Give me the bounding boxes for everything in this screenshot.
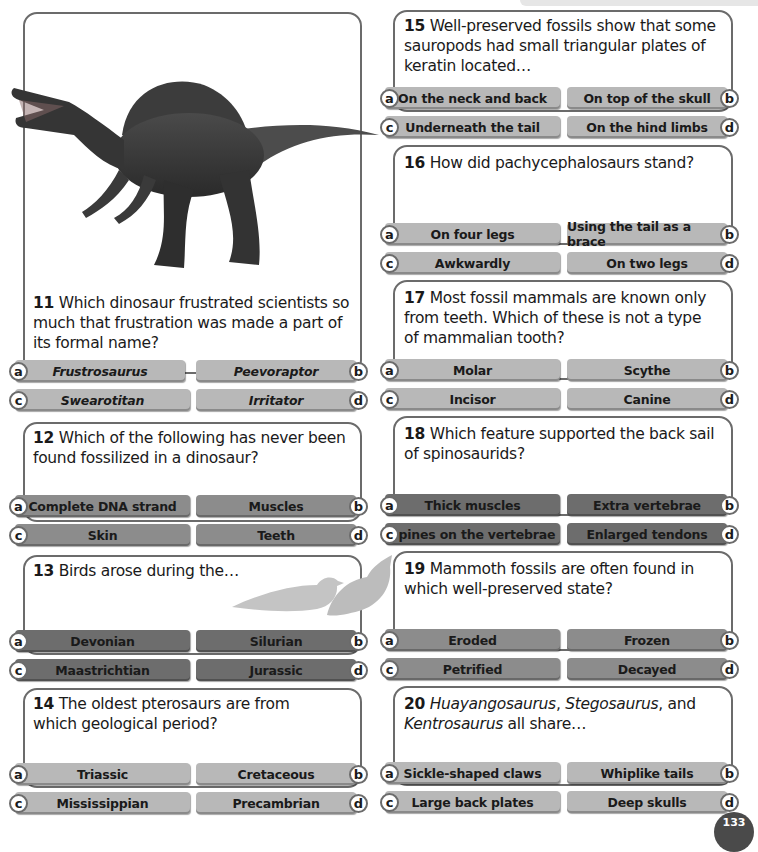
question-20-text: 20 Huayangosaurus, Stegosaurus, and Kent… — [404, 694, 734, 734]
badge-b: b — [720, 225, 739, 244]
option-d[interactable]: Canine — [567, 388, 727, 410]
option-c[interactable]: Underneath the tail — [385, 116, 560, 138]
badge-c: c — [380, 793, 399, 812]
option-c[interactable]: Skin — [15, 524, 190, 546]
option-a[interactable]: Triassic — [15, 763, 190, 785]
option-c[interactable]: Awkwardly — [385, 252, 560, 274]
option-a[interactable]: On four legs — [385, 223, 560, 245]
option-b[interactable]: On top of the skull — [567, 87, 727, 109]
badge-a: a — [380, 225, 399, 244]
badge-a: a — [9, 362, 28, 381]
option-b[interactable]: Cretaceous — [196, 763, 356, 785]
option-d[interactable]: Decayed — [567, 658, 727, 680]
option-a[interactable]: Sickle-shaped claws — [385, 762, 560, 784]
option-a[interactable]: Complete DNA strand — [15, 495, 190, 517]
badge-a: a — [380, 89, 399, 108]
question-11-text: 11 Which dinosaur frustrated scientists … — [33, 293, 363, 353]
badge-b: b — [349, 765, 368, 784]
option-d[interactable]: Irritator — [196, 389, 356, 411]
badge-d: d — [349, 661, 368, 680]
question-16-text: 16 How did pachycephalosaurs stand? — [404, 153, 734, 173]
option-d[interactable]: Enlarged tendons — [567, 523, 727, 545]
badge-a: a — [380, 764, 399, 783]
badge-a: a — [380, 496, 399, 515]
option-d[interactable]: Jurassic — [196, 659, 356, 681]
badge-b: b — [720, 496, 739, 515]
badge-d: d — [720, 793, 739, 812]
badge-d: d — [720, 118, 739, 137]
badge-a: a — [9, 632, 28, 651]
option-d[interactable]: On the hind limbs — [567, 116, 727, 138]
badge-b: b — [349, 362, 368, 381]
spinosaurus-illustration — [4, 40, 384, 280]
badge-b: b — [720, 89, 739, 108]
badge-b: b — [349, 632, 368, 651]
option-c[interactable]: Incisor — [385, 388, 560, 410]
badge-c: c — [9, 391, 28, 410]
option-c[interactable]: Large back plates — [385, 791, 560, 813]
option-b[interactable]: Extra vertebrae — [567, 494, 727, 516]
option-c[interactable]: Swearotitan — [15, 389, 190, 411]
option-b[interactable]: Silurian — [196, 630, 356, 652]
badge-d: d — [349, 526, 368, 545]
badge-d: d — [720, 525, 739, 544]
option-a[interactable]: Eroded — [385, 629, 560, 651]
badge-d: d — [720, 254, 739, 273]
option-a[interactable]: Molar — [385, 359, 560, 381]
badge-a: a — [380, 361, 399, 380]
badge-d: d — [720, 660, 739, 679]
badge-c: c — [380, 118, 399, 137]
badge-a: a — [9, 497, 28, 516]
option-d[interactable]: Deep skulls — [567, 791, 727, 813]
question-13-text: 13 Birds arose during the… — [33, 561, 363, 581]
option-d[interactable]: Teeth — [196, 524, 356, 546]
badge-d: d — [349, 391, 368, 410]
option-b[interactable]: Whiplike tails — [567, 762, 727, 784]
question-12-text: 12 Which of the following has never been… — [33, 428, 363, 468]
option-b[interactable]: Peevoraptor — [196, 360, 356, 382]
question-17-text: 17 Most fossil mammals are known only fr… — [404, 288, 734, 348]
badge-d: d — [349, 794, 368, 813]
option-a[interactable]: On the neck and back — [385, 87, 560, 109]
option-c[interactable]: Mississippian — [15, 792, 190, 814]
page-top-tab — [520, 0, 758, 6]
badge-c: c — [380, 660, 399, 679]
option-b[interactable]: Muscles — [196, 495, 356, 517]
badge-c: c — [380, 390, 399, 409]
option-d[interactable]: Precambrian — [196, 792, 356, 814]
option-b[interactable]: Using the tail as a brace — [567, 223, 727, 245]
badge-b: b — [720, 764, 739, 783]
option-b[interactable]: Frozen — [567, 629, 727, 651]
question-19-text: 19 Mammoth fossils are often found in wh… — [404, 559, 734, 599]
badge-c: c — [9, 526, 28, 545]
question-14-text: 14 The oldest pterosaurs are from which … — [33, 694, 363, 734]
option-a[interactable]: Frustrosaurus — [15, 360, 185, 382]
badge-d: d — [720, 390, 739, 409]
option-d[interactable]: On two legs — [567, 252, 727, 274]
option-c[interactable]: Petrified — [385, 658, 560, 680]
badge-c: c — [380, 525, 399, 544]
option-b[interactable]: Scythe — [567, 359, 727, 381]
question-15-text: 15 Well-preserved fossils show that some… — [404, 16, 734, 76]
badge-c: c — [9, 794, 28, 813]
badge-c: c — [9, 661, 28, 680]
option-a[interactable]: Thick muscles — [385, 494, 560, 516]
badge-b: b — [720, 361, 739, 380]
badge-c: c — [380, 254, 399, 273]
option-a[interactable]: Devonian — [15, 630, 190, 652]
badge-b: b — [720, 631, 739, 650]
option-c[interactable]: Spines on the vertebrae — [385, 523, 560, 545]
badge-b: b — [349, 497, 368, 516]
question-18-text: 18 Which feature supported the back sail… — [404, 424, 734, 464]
badge-a: a — [380, 631, 399, 650]
page-number-badge: 133 — [714, 812, 754, 852]
option-c[interactable]: Maastrichtian — [15, 659, 190, 681]
badge-a: a — [9, 765, 28, 784]
